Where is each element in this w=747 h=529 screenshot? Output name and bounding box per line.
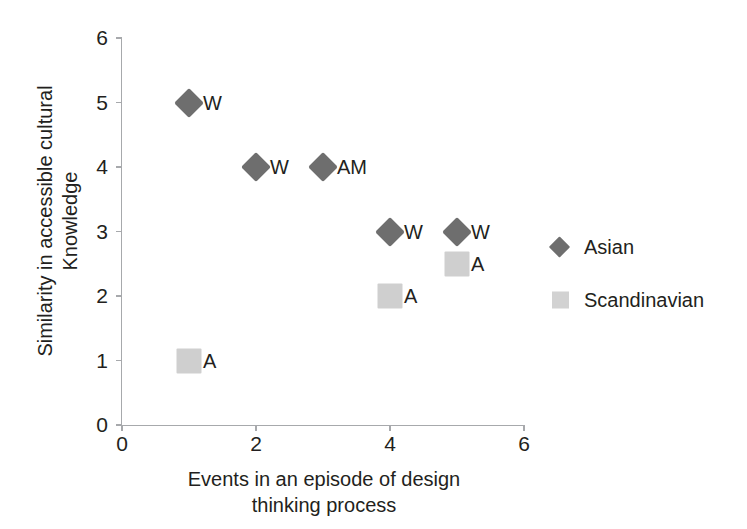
data-point-label: W [270,157,289,177]
y-tick-label: 3 [78,221,108,242]
x-tick-mark [523,425,524,431]
data-point-square[interactable] [177,348,202,373]
x-tick-label: 4 [370,433,410,454]
legend-label-asian: Asian [584,235,634,258]
data-point-label: W [471,222,490,242]
x-tick-label: 2 [236,433,276,454]
chart-legend: Asian Scandinavian [552,220,732,326]
legend-item-scandinavian[interactable]: Scandinavian [552,273,732,326]
y-tick-label: 0 [78,414,108,435]
data-point-label: A [404,286,417,306]
x-tick-mark [121,425,122,431]
y-tick-label: 1 [78,350,108,371]
data-point-label: A [471,254,484,274]
data-point-square[interactable] [445,251,470,276]
data-point-label: W [404,222,423,242]
y-tick-label: 4 [78,156,108,177]
y-tick-label: 6 [78,27,108,48]
x-axis-title-line-2: thinking process [122,492,526,518]
data-point-label: W [203,93,222,113]
data-point-square[interactable] [378,284,403,309]
data-point-label: AM [337,157,367,177]
y-axis-title: Similarity in accessible cultural Knowle… [33,26,83,416]
legend-label-scandinavian: Scandinavian [584,288,704,311]
legend-diamond-icon [549,236,570,257]
y-tick-label: 5 [78,92,108,113]
x-axis-line [121,425,525,426]
x-tick-label: 6 [504,433,544,454]
data-point-label: A [203,351,216,371]
x-axis-title-line-1: Events in an episode of design [122,466,526,492]
x-axis-title: Events in an episode of design thinking … [122,466,526,518]
y-axis-title-line-1: Similarity in accessible cultural [33,26,58,416]
x-tick-mark [389,425,390,431]
scatter-chart-figure: Similarity in accessible cultural Knowle… [0,0,747,529]
x-tick-mark [255,425,256,431]
y-tick-label: 2 [78,285,108,306]
x-tick-label: 0 [102,433,142,454]
legend-square-icon [552,291,569,308]
legend-item-asian[interactable]: Asian [552,220,732,273]
